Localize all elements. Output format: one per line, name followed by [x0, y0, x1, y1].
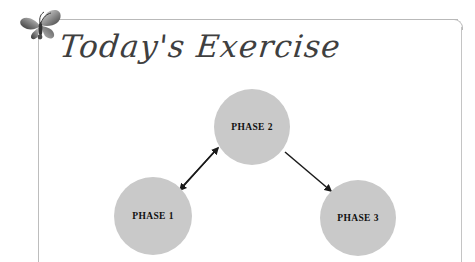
arrow-phase2-to-phase3	[285, 152, 331, 191]
node-phase-2[interactable]: PHASE 2	[214, 89, 290, 165]
node-phase-2-label: PHASE 2	[231, 122, 273, 132]
node-phase-1[interactable]: PHASE 1	[114, 177, 192, 255]
node-phase-3[interactable]: PHASE 3	[320, 180, 396, 256]
node-phase-3-label: PHASE 3	[337, 213, 379, 223]
node-phase-1-label: PHASE 1	[132, 211, 174, 221]
phase-diagram: PHASE 2 PHASE 1 PHASE 3	[0, 0, 475, 262]
arrow-phase2-to-phase1	[180, 152, 214, 190]
exercise-slide: Today's Exercise PHASE 2 PHASE 1	[0, 0, 475, 262]
arrow-phase1-to-phase2	[182, 148, 218, 187]
